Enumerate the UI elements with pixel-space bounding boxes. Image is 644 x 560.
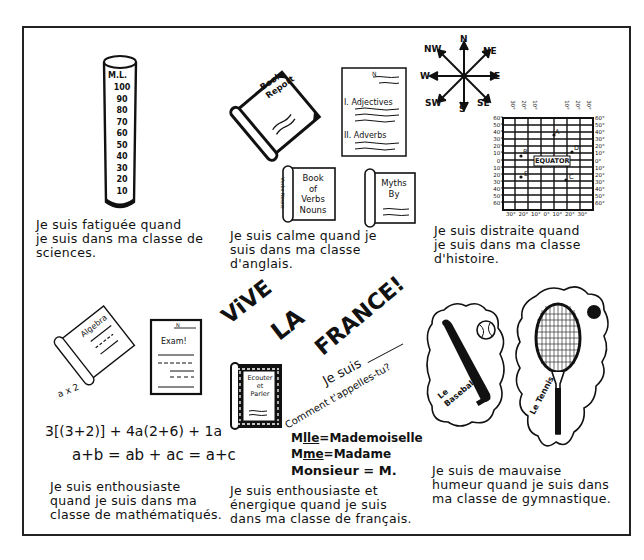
equals-sign: =: [359, 463, 379, 478]
outline-paper-icon: [341, 67, 407, 157]
caption-mathematiques: Je suis enthousiaste quand je suis dans …: [50, 480, 222, 522]
abbr-short: M: [291, 447, 303, 461]
cylinder-label: M.L.: [108, 71, 127, 80]
grid-label: 20°: [521, 100, 527, 110]
grid-label: 30°: [578, 211, 588, 217]
grid-label: 30°: [586, 100, 592, 110]
abbr-full: Madame: [334, 447, 391, 461]
caption-sciences: Je suis fatiguée quand je suis dans ma c…: [36, 218, 203, 260]
grid-label: 10°: [531, 211, 541, 217]
caption-line: ma classe de gymnastique.: [432, 492, 611, 506]
abbr-short: M: [291, 431, 303, 445]
cylinder-ticks: 100 90 80 70 60 50 40 30 20 10: [104, 83, 140, 198]
caption-line: je suis dans ma classe: [434, 238, 581, 252]
caption-histoire: Je suis distraite quand je suis dans ma …: [434, 224, 581, 266]
grid-label: 30°: [506, 211, 516, 217]
map-right-labels: 60° 50° 40° 30° 20° 10° 0° 10° 20° 30° 4…: [595, 115, 607, 207]
tick: 80: [104, 106, 140, 118]
caption-line: suis dans ma classe: [230, 243, 377, 257]
tick: 90: [104, 95, 140, 107]
abbr-full: M.: [379, 463, 397, 478]
map-point-c: C: [569, 173, 574, 181]
grid-label: 20°: [575, 100, 581, 110]
grid-label: 60°: [595, 200, 607, 207]
grid-label: 10°: [493, 165, 503, 172]
caption-line: dans ma classe de français.: [230, 512, 412, 526]
compass-w: W: [420, 71, 430, 81]
compass-nw: NW: [424, 44, 441, 54]
abbr-madame: Mme=Madame: [291, 447, 391, 461]
tick: 20: [104, 175, 140, 187]
grid-label: 0°: [595, 158, 607, 165]
caption-line: je suis dans ma classe de: [36, 232, 203, 246]
caption-gymnastique: Je suis de mauvaise humeur quand je suis…: [432, 464, 611, 506]
myths-book-title: Myths By: [377, 178, 411, 200]
grid-label: 40°: [493, 129, 503, 136]
grid-label: 40°: [595, 186, 607, 193]
caption-line: humeur quand je suis dans: [432, 478, 611, 492]
ecouter-book-title: Ecouter et Parler: [244, 374, 276, 398]
tick: 50: [104, 141, 140, 153]
abbr-mademoiselle: Mlle=Mademoiselle: [291, 431, 423, 445]
exam-title: Exam!: [161, 337, 187, 346]
grid-label: 10°: [493, 150, 503, 157]
equation-1: 3[(3+2)] + 4a(2+6) + 1a: [45, 423, 222, 439]
equator-label: EQUATOR: [535, 157, 570, 165]
tick: 60: [104, 129, 140, 141]
grid-label: 20°: [595, 172, 607, 179]
grid-label: 50°: [493, 122, 503, 129]
abbr-sup: me: [303, 447, 324, 461]
grid-label: 20°: [493, 143, 503, 150]
compass-n: N: [460, 34, 468, 44]
myths-book-word: By: [377, 189, 411, 200]
grid-label: 50°: [595, 193, 607, 200]
grid-label: 20°: [493, 172, 503, 179]
outline-section-2: II. Adverbs: [344, 131, 386, 140]
tick: 30: [104, 164, 140, 176]
grid-label: 40°: [493, 186, 503, 193]
caption-line: Je suis calme quand je: [230, 229, 377, 243]
caption-line: Je suis enthousiaste: [50, 480, 222, 494]
grid-label: 20°: [519, 211, 529, 217]
grid-label: 30°: [595, 136, 607, 143]
grid-label: 0°: [544, 211, 550, 217]
exam-paper-icon: [150, 319, 202, 395]
verbs-book-word: Nouns: [295, 205, 331, 216]
tick: 10: [104, 187, 140, 199]
grid-label: 50°: [493, 193, 503, 200]
grid-label: 20°: [595, 143, 607, 150]
caption-line: d'histoire.: [434, 252, 581, 266]
equals-sign: =: [319, 431, 329, 445]
caption-anglais: Je suis calme quand je suis dans ma clas…: [230, 229, 377, 271]
tick: 70: [104, 118, 140, 130]
baseball-cloud: [424, 300, 508, 430]
grid-label: 30°: [510, 100, 516, 110]
grid-label: 0°: [493, 158, 503, 165]
compass-s: S: [459, 104, 465, 114]
outline-name-line: N: [372, 70, 377, 77]
caption-line: d'anglais.: [230, 257, 377, 271]
tennis-cloud: [512, 284, 612, 454]
caption-line: quand je suis dans ma: [50, 494, 222, 508]
grid-label: 50°: [595, 122, 607, 129]
map-point-e: E: [524, 170, 528, 178]
map-bottom-labels: 30° 20° 10° 0° 10° 20° 30°: [506, 211, 587, 217]
book-word: et: [244, 382, 276, 390]
caption-line: Je suis distraite quand: [434, 224, 581, 238]
grid-label: 10°: [564, 100, 570, 110]
map-point-b: B: [523, 148, 527, 156]
verbs-book-word: Verbs: [295, 194, 331, 205]
caption-line: Je suis de mauvaise: [432, 464, 611, 478]
verbs-book-word: of: [295, 184, 331, 195]
grid-label: 10°: [595, 165, 607, 172]
grid-label: 10°: [532, 100, 538, 110]
map-point-d: D: [574, 144, 579, 152]
verbs-book-word: Book: [295, 173, 331, 184]
grid-label: 60°: [493, 200, 503, 207]
grid-label: 10°: [553, 211, 563, 217]
grid-label: 40°: [595, 129, 607, 136]
tick: 40: [104, 152, 140, 164]
equation-2: a+b = ab + ac = a+c: [72, 446, 236, 464]
tick: 100: [104, 83, 140, 95]
grid-label: 30°: [595, 179, 607, 186]
